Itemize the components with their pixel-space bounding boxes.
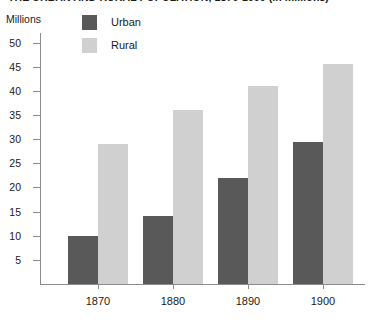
y-axis-tick [33,212,41,213]
plot-area: 5101520253035404550 1870188018901900 [40,33,365,285]
y-axis-tick [33,139,41,140]
x-axis-tick [98,284,99,289]
y-axis-tick-label: 40 [0,85,21,97]
legend-label-urban: Urban [111,17,141,28]
legend-swatch-urban-icon [82,15,97,30]
bar-rural-1870 [98,144,128,284]
bar-rural-1900 [323,64,353,284]
y-axis-tick [33,43,41,44]
y-axis-tick-label: 45 [0,61,21,73]
y-axis-tick [33,260,41,261]
bar-urban-1870 [68,236,98,284]
bar-rural-1880 [173,110,203,284]
bar-chart-figure: THE URBAN AND RURAL POPULATION, 1870-190… [0,0,372,323]
x-axis-line [40,284,365,285]
y-axis-tick-label: 20 [0,181,21,193]
x-axis-tick [173,284,174,289]
y-axis-tick-label: 5 [0,254,21,266]
y-axis-tick [33,115,41,116]
x-axis-label-1900: 1900 [293,295,353,307]
y-axis-tick-label: 10 [0,230,21,242]
y-axis-tick-label: 25 [0,157,21,169]
y-axis-tick-label: 30 [0,133,21,145]
y-axis-tick-label: 35 [0,109,21,121]
y-axis-unit-caption: Millions [6,13,41,25]
x-axis-tick [248,284,249,289]
y-axis-tick [33,91,41,92]
bar-urban-1890 [218,178,248,284]
y-axis-tick [33,163,41,164]
y-axis-tick [33,236,41,237]
y-axis-line [40,33,41,285]
y-axis-tick-label: 50 [0,37,21,49]
x-axis-label-1870: 1870 [68,295,128,307]
chart-title: THE URBAN AND RURAL POPULATION, 1870-190… [8,0,368,3]
bar-urban-1900 [293,142,323,284]
bar-rural-1890 [248,86,278,284]
x-axis-label-1890: 1890 [218,295,278,307]
x-axis-tick [323,284,324,289]
bar-urban-1880 [143,216,173,284]
y-axis-tick [33,187,41,188]
x-axis-label-1880: 1880 [143,295,203,307]
y-axis-tick [33,67,41,68]
y-axis-tick-label: 15 [0,206,21,218]
legend-item-urban: Urban [82,12,212,32]
